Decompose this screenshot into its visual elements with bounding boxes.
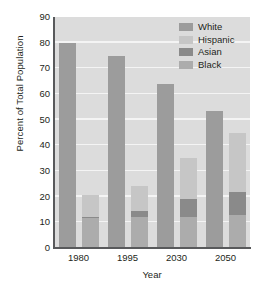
plot-area: WhiteHispanicAsianBlack: [54, 17, 250, 248]
y-tick-label: 20: [28, 192, 50, 202]
legend-item-black: Black: [179, 59, 249, 72]
chart-legend: WhiteHispanicAsianBlack: [179, 21, 249, 71]
bar-stacked-minorities: [82, 195, 99, 248]
x-axis-line: [53, 247, 251, 249]
bar-segment-hispanic: [180, 158, 197, 199]
gridline: [54, 93, 250, 95]
x-axis-title: Year: [54, 269, 250, 280]
bar-stacked-minorities: [131, 186, 148, 248]
bar-segment-asian: [82, 217, 99, 218]
legend-item-asian: Asian: [179, 46, 249, 59]
legend-label: White: [198, 22, 222, 32]
bar-segment-hispanic: [82, 195, 99, 217]
legend-item-hispanic: Hispanic: [179, 34, 249, 47]
legend-item-white: White: [179, 21, 249, 34]
bar-segment-asian: [229, 192, 246, 215]
bar-white: [59, 43, 76, 248]
y-tick-label: 10: [28, 217, 50, 227]
y-axis-line: [53, 17, 55, 249]
legend-swatch-icon: [179, 23, 193, 31]
bar-segment-asian: [180, 199, 197, 217]
legend-swatch-icon: [179, 36, 193, 44]
y-axis-tick-labels: 0102030405060708090: [24, 0, 50, 294]
bar-white: [206, 111, 223, 248]
y-tick-label: 60: [28, 89, 50, 99]
x-tick-label: 2030: [152, 252, 202, 263]
y-tick-label: 70: [28, 63, 50, 73]
y-tick-label: 50: [28, 115, 50, 125]
y-axis-title: Percent of Total Population: [14, 14, 25, 174]
bar-stacked-minorities: [229, 133, 246, 249]
y-tick-label: 90: [28, 12, 50, 22]
x-tick-label: 1995: [103, 252, 153, 263]
x-tick-label: 1980: [54, 252, 104, 263]
bar-segment-hispanic: [229, 133, 246, 192]
y-tick-label: 40: [28, 140, 50, 150]
y-tick-label: 0: [28, 243, 50, 253]
bar-segment-black: [229, 215, 246, 248]
bar-segment-black: [131, 217, 148, 248]
chart-figure: Percent of Total Population 010203040506…: [0, 0, 270, 294]
y-tick-label: 30: [28, 166, 50, 176]
bar-stacked-minorities: [180, 158, 197, 248]
y-tick-label: 80: [28, 38, 50, 48]
bar-segment-black: [180, 217, 197, 248]
legend-swatch-icon: [179, 48, 193, 56]
bar-white: [157, 84, 174, 248]
bar-segment-asian: [131, 211, 148, 217]
legend-label: Black: [198, 60, 221, 70]
x-tick-label: 2050: [201, 252, 251, 263]
bar-segment-hispanic: [131, 186, 148, 210]
bar-white: [108, 56, 125, 249]
legend-swatch-icon: [179, 61, 193, 69]
legend-label: Asian: [198, 47, 222, 57]
legend-label: Hispanic: [198, 35, 234, 45]
bar-segment-black: [82, 218, 99, 248]
